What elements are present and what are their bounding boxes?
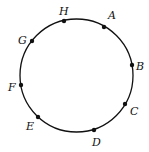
point-label-a: A (107, 9, 116, 22)
points-group: ABCDEFGH (7, 5, 144, 149)
point-f (19, 83, 23, 87)
point-label-g: G (18, 34, 27, 47)
point-label-c: C (130, 105, 139, 118)
point-label-d: D (91, 136, 101, 149)
point-b (130, 63, 134, 67)
point-e (36, 115, 40, 119)
circle-diagram: ABCDEFGH (0, 0, 149, 152)
point-label-h: H (58, 5, 69, 18)
point-label-f: F (7, 81, 16, 94)
point-label-b: B (135, 60, 144, 73)
point-c (123, 102, 127, 106)
circle (20, 19, 133, 132)
point-d (92, 128, 96, 132)
point-h (62, 19, 66, 23)
point-label-e: E (25, 120, 34, 133)
point-a (102, 25, 106, 29)
point-g (30, 39, 34, 43)
